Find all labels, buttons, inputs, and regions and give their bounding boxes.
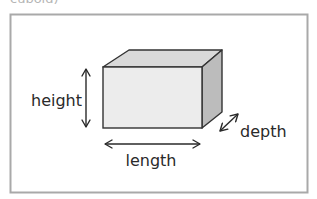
- length-label: length: [126, 151, 177, 170]
- cuboid-front-face: [103, 67, 202, 128]
- depth-label: depth: [240, 122, 287, 141]
- cuboid: [103, 50, 222, 128]
- cuboid-diagram: height length depth: [0, 0, 317, 199]
- height-label: height: [31, 91, 82, 110]
